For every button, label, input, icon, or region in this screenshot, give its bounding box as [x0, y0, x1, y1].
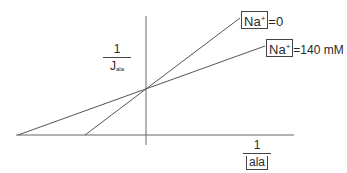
x-axis-label-numerator: 1	[243, 139, 271, 152]
fraction-bar	[103, 57, 131, 58]
fraction-bar	[243, 153, 271, 154]
plot-canvas	[0, 0, 347, 173]
x-axis-label: 1 ala	[243, 139, 271, 170]
y-axis-label: 1 Jala	[103, 43, 131, 75]
line-label-na-0: Na+=0	[241, 11, 283, 29]
line-na-0	[85, 18, 240, 135]
line-label-na-140: Na+=140 mM	[266, 39, 344, 57]
y-axis-label-numerator: 1	[103, 43, 131, 56]
x-axis-label-denominator: ala	[243, 156, 271, 170]
line-na-140	[18, 46, 265, 135]
y-axis-label-denominator: Jala	[103, 60, 131, 75]
